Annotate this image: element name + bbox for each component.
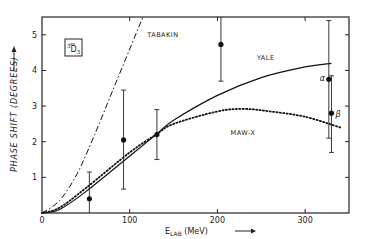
data-point bbox=[218, 42, 223, 47]
data-point bbox=[87, 196, 92, 201]
point-label: α bbox=[320, 74, 326, 83]
y-tick-label: 1 bbox=[32, 173, 37, 182]
panel-label: 3D3 bbox=[67, 43, 81, 55]
y-axis-label: PHASE SHIFT (DEGREES) bbox=[10, 56, 19, 172]
point-label: β bbox=[334, 110, 340, 119]
plot-frame bbox=[42, 17, 349, 213]
data-point bbox=[121, 137, 126, 142]
data-point bbox=[326, 77, 331, 82]
y-tick-label: 4 bbox=[32, 66, 37, 75]
curve-label: TABAKIN bbox=[146, 31, 178, 39]
x-tick-label: 100 bbox=[122, 216, 137, 225]
labels: 3D3TABAKINYALEMAW-Xαβ bbox=[65, 31, 341, 137]
axes: 010020030012345ELAB (MeV) PHASE SHIFT (D… bbox=[10, 17, 349, 237]
y-tick-label: 2 bbox=[32, 138, 37, 147]
y-tick-label: 5 bbox=[32, 31, 37, 40]
series-yale bbox=[42, 63, 331, 213]
x-axis-arrow-icon bbox=[251, 229, 256, 234]
x-tick-label: 200 bbox=[210, 216, 225, 225]
x-axis-label: ELAB (MeV) bbox=[165, 227, 208, 237]
phase-shift-chart: 010020030012345ELAB (MeV) PHASE SHIFT (D… bbox=[0, 0, 366, 239]
curves bbox=[42, 17, 340, 213]
y-tick-label: 3 bbox=[32, 102, 37, 111]
curve-label: YALE bbox=[256, 54, 275, 62]
x-tick-label: 0 bbox=[39, 216, 44, 225]
data-point bbox=[154, 132, 159, 137]
data-point bbox=[329, 111, 334, 116]
x-tick-label: 300 bbox=[298, 216, 313, 225]
series-maw-x bbox=[42, 109, 340, 213]
curve-label: MAW-X bbox=[231, 129, 256, 137]
y-axis-arrow-icon bbox=[12, 46, 17, 52]
